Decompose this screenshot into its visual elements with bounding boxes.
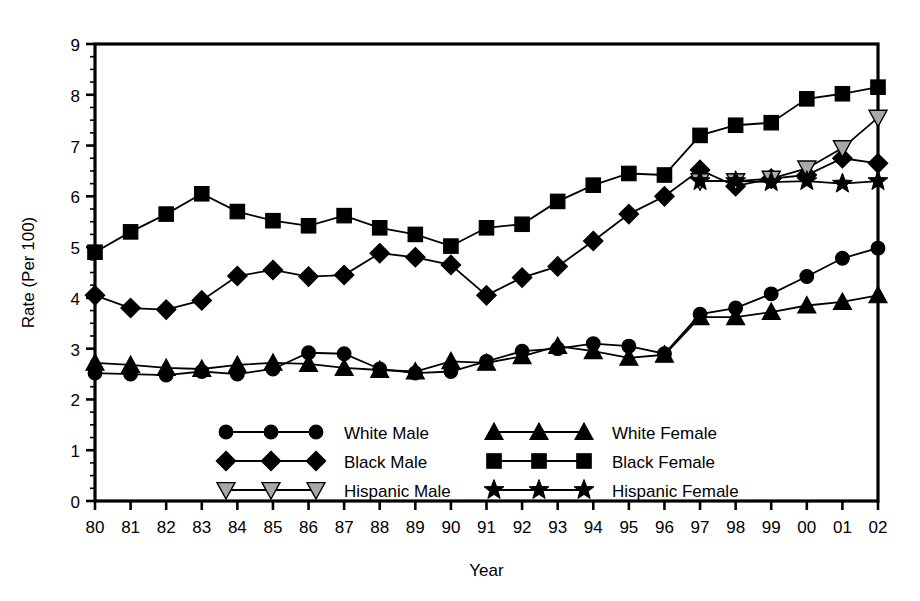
legend-label: Black Male	[344, 453, 427, 472]
x-tick-label: 93	[548, 518, 567, 537]
x-tick-label: 99	[762, 518, 781, 537]
data-point	[408, 227, 422, 241]
data-point	[693, 128, 707, 142]
legend-marker	[487, 454, 501, 468]
y-tick-label: 4	[71, 290, 80, 309]
y-axis-title: Rate (Per 100)	[19, 217, 38, 329]
x-tick-label: 90	[441, 518, 460, 537]
legend-label: Hispanic Female	[612, 482, 739, 501]
x-tick-label: 01	[833, 518, 852, 537]
x-tick-label: 83	[192, 518, 211, 537]
data-point	[764, 116, 778, 130]
x-tick-label: 89	[406, 518, 425, 537]
y-tick-label: 5	[71, 239, 80, 258]
y-tick-label: 6	[71, 188, 80, 207]
data-point	[373, 221, 387, 235]
x-tick-label: 84	[228, 518, 247, 537]
legend-marker	[309, 425, 323, 439]
legend-marker	[532, 454, 546, 468]
y-tick-label: 8	[71, 87, 80, 106]
data-point	[301, 219, 315, 233]
data-point	[515, 217, 529, 231]
data-point	[871, 80, 885, 94]
x-tick-label: 95	[619, 518, 638, 537]
x-tick-label: 02	[869, 518, 888, 537]
x-tick-label: 97	[691, 518, 710, 537]
data-point	[550, 194, 564, 208]
y-tick-label: 1	[71, 442, 80, 461]
data-point	[159, 207, 173, 221]
chart-page: 0123456789808182838485868788899091929394…	[0, 0, 920, 601]
data-point	[836, 251, 850, 265]
x-tick-label: 00	[797, 518, 816, 537]
legend-marker	[219, 425, 233, 439]
legend-label: White Male	[344, 424, 429, 443]
x-tick-label: 86	[299, 518, 318, 537]
x-tick-label: 96	[655, 518, 674, 537]
y-axis: 0123456789	[71, 36, 95, 512]
data-point	[800, 92, 814, 106]
x-tick-label: 87	[335, 518, 354, 537]
x-tick-label: 92	[513, 518, 532, 537]
data-point	[337, 208, 351, 222]
data-point	[764, 287, 778, 301]
data-point	[728, 118, 742, 132]
data-point	[266, 214, 280, 228]
y-tick-label: 2	[71, 391, 80, 410]
data-point	[871, 241, 885, 255]
data-point	[586, 178, 600, 192]
x-tick-label: 81	[121, 518, 140, 537]
data-point	[444, 239, 458, 253]
x-axis-title: Year	[469, 561, 504, 580]
legend-marker	[577, 454, 591, 468]
plot-frame	[95, 44, 878, 501]
data-point	[230, 204, 244, 218]
x-tick-label: 88	[370, 518, 389, 537]
data-point	[800, 270, 814, 284]
y-tick-label: 3	[71, 341, 80, 360]
data-point	[622, 166, 636, 180]
legend-label: White Female	[612, 424, 717, 443]
legend-label: Hispanic Male	[344, 482, 451, 501]
line-chart: 0123456789808182838485868788899091929394…	[0, 0, 920, 601]
x-tick-label: 98	[726, 518, 745, 537]
data-point	[479, 221, 493, 235]
data-point	[657, 168, 671, 182]
legend-label: Black Female	[612, 453, 715, 472]
x-tick-label: 80	[86, 518, 105, 537]
y-tick-label: 9	[71, 36, 80, 55]
data-point	[88, 245, 102, 259]
x-tick-label: 94	[584, 518, 603, 537]
x-tick-label: 91	[477, 518, 496, 537]
y-tick-label: 7	[71, 138, 80, 157]
x-tick-label: 85	[263, 518, 282, 537]
y-tick-label: 0	[71, 493, 80, 512]
data-point	[123, 225, 137, 239]
chart-canvas: 0123456789808182838485868788899091929394…	[0, 0, 920, 601]
x-tick-label: 82	[157, 518, 176, 537]
x-axis: 8081828384858687888990919293949596979899…	[86, 501, 888, 537]
data-point	[835, 87, 849, 101]
legend-marker	[264, 425, 278, 439]
data-point	[195, 187, 209, 201]
